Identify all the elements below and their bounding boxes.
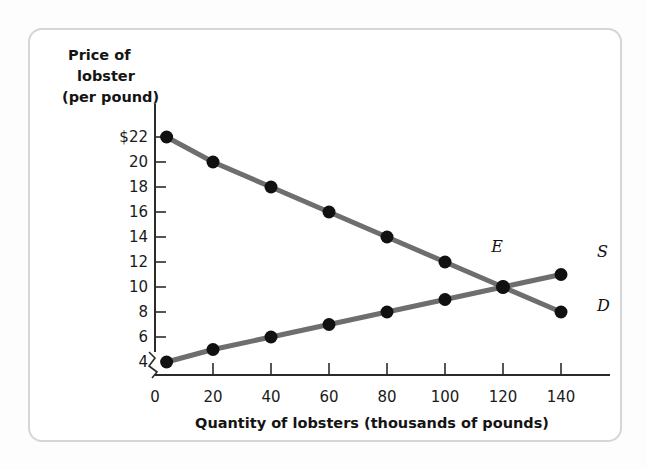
data-point-S-140 bbox=[555, 268, 568, 281]
y-axis-title-line-2: lobster bbox=[77, 68, 136, 84]
data-point-D-20 bbox=[207, 156, 220, 169]
lobster-supply-demand-chart: Price of lobster (per pound) 4 6 8 10 12… bbox=[0, 0, 647, 470]
y-axis-break-icon bbox=[149, 352, 157, 378]
figure-root: Price of lobster (per pound) 4 6 8 10 12… bbox=[0, 0, 647, 470]
y-tick-label-18: 18 bbox=[129, 178, 148, 196]
x-tick-marks bbox=[213, 363, 561, 375]
data-point-D-100 bbox=[439, 256, 452, 269]
y-axis-title-line-3: (per pound) bbox=[62, 89, 159, 105]
data-point-S-40 bbox=[265, 331, 278, 344]
x-tick-label-120: 120 bbox=[489, 388, 518, 406]
y-tick-label-22: $22 bbox=[119, 128, 148, 146]
data-point-S-80 bbox=[381, 306, 394, 319]
data-point-D-60 bbox=[323, 206, 336, 219]
y-tick-label-16: 16 bbox=[129, 203, 148, 221]
data-point-S-60 bbox=[323, 318, 336, 331]
series-label-S: S bbox=[597, 242, 608, 261]
series-label-D: D bbox=[596, 296, 610, 315]
data-point-D-40 bbox=[265, 181, 278, 194]
y-tick-label-20: 20 bbox=[129, 153, 148, 171]
data-point-D-4 bbox=[160, 131, 173, 144]
y-axis-title-line-1: Price of bbox=[68, 47, 131, 63]
data-point-S-4 bbox=[160, 356, 173, 369]
y-tick-label-8: 8 bbox=[138, 303, 148, 321]
y-tick-label-4: 4 bbox=[138, 353, 148, 371]
x-axis-title: Quantity of lobsters (thousands of pound… bbox=[195, 415, 549, 431]
y-tick-label-14: 14 bbox=[129, 228, 148, 246]
y-tick-label-6: 6 bbox=[138, 328, 148, 346]
y-tick-label-12: 12 bbox=[129, 253, 148, 271]
x-tick-label-60: 60 bbox=[319, 388, 338, 406]
x-tick-label-20: 20 bbox=[203, 388, 222, 406]
x-tick-label-80: 80 bbox=[377, 388, 396, 406]
y-tick-label-10: 10 bbox=[129, 278, 148, 296]
annotation-point-equilibrium bbox=[496, 280, 510, 294]
data-point-D-140 bbox=[555, 306, 568, 319]
equilibrium-label: E bbox=[490, 237, 503, 256]
data-point-S-100 bbox=[439, 293, 452, 306]
x-tick-label-140: 140 bbox=[547, 388, 576, 406]
data-point-D-80 bbox=[381, 231, 394, 244]
y-tick-marks bbox=[155, 137, 166, 337]
data-point-S-20 bbox=[207, 343, 220, 356]
x-tick-label-40: 40 bbox=[261, 388, 280, 406]
series-layer bbox=[160, 131, 567, 369]
x-tick-label-100: 100 bbox=[431, 388, 460, 406]
x-tick-label-0: 0 bbox=[150, 388, 160, 406]
